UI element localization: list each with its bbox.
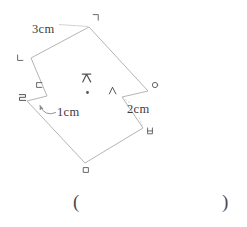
vertex-label-ieung [151,81,159,89]
center-point-dot [86,91,89,94]
center-label-jieut [81,72,92,83]
vertex-label-siot [108,86,117,95]
measurement-3cm: 3cm [32,22,54,37]
vertex-label-bieup [146,127,154,135]
vertex-label-giyeok [92,13,100,21]
vertex-label-mieum [82,166,90,174]
measurement-2cm: 2cm [127,102,149,117]
answer-open-paren: ( [73,191,79,213]
polygon-outline [27,27,148,163]
worksheet-figure: 3cm 1cm 2cm ( ) [0,0,247,227]
measurement-1cm: 1cm [57,105,79,120]
vertex-label-digeut [35,81,43,89]
arrow-1cm [40,106,56,114]
answer-close-paren: ) [222,191,228,213]
vertex-label-rieul [18,93,27,102]
leader-line-3cm [59,25,88,27]
vertex-label-nieun [16,54,24,62]
